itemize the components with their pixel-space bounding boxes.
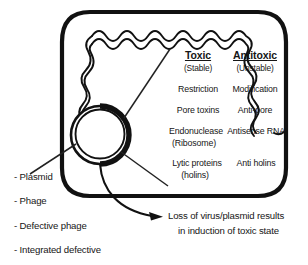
caption-arrowhead (149, 212, 163, 221)
plasmid-inner-ring (76, 110, 125, 159)
figure-root: Toxic Antitoxic (Stable) (Unstable) Rest… (0, 0, 308, 265)
column-subheading-antitoxic: (Unstable) (236, 64, 273, 72)
row-toxic-lytic-proteins-sub: (holins) (181, 171, 209, 180)
row-antitoxic-anti-pore: Anti-pore (238, 106, 272, 115)
row-antitoxic-anti-holins: Anti holins (237, 159, 276, 168)
row-toxic-restriction: Restriction (178, 85, 218, 94)
caption-line-2: in induction of toxic state (178, 226, 279, 236)
caption-line-1: Loss of virus/plasmid results (168, 211, 284, 221)
row-antitoxic-modification: Modification (232, 85, 277, 94)
row-antitoxic-antisense-rna: Antisense RNA (227, 127, 285, 136)
column-heading-toxic: Toxic (185, 50, 211, 61)
column-heading-antitoxic: Antitoxic (233, 50, 277, 61)
legend-item-integrated-defective: - Integrated defective (14, 245, 101, 255)
legend-item-phage: - Phage (14, 196, 47, 206)
column-subheading-toxic: (Stable) (184, 64, 212, 72)
legend-item-defective-phage: - Defective phage (14, 221, 87, 231)
row-toxic-pore-toxins: Pore toxins (177, 106, 219, 115)
row-toxic-endonuclease-sub: (Ribosome) (172, 139, 216, 148)
legend-item-plasmid: - Plasmid (14, 172, 53, 182)
row-toxic-lytic-proteins: Lytic proteins (172, 159, 221, 168)
row-toxic-endonuclease: Endonuclease (169, 127, 223, 136)
